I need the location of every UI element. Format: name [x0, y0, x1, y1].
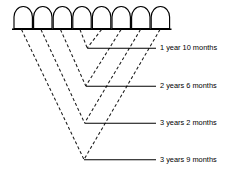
- arch-shape-tooth-5: [92, 6, 110, 28]
- eruption-ray-left-4: [22, 30, 85, 160]
- eruption-v-group-4: [22, 30, 161, 160]
- eruption-ray-right-2: [86, 30, 121, 86]
- arch-shape-tooth-1: [14, 6, 32, 28]
- arch-shape-tooth-7: [132, 7, 150, 29]
- arch-row: [14, 6, 170, 28]
- eruption-ray-left-1: [80, 30, 87, 48]
- eruption-ray-left-3: [41, 30, 85, 123]
- age-label-4: 3 years 9 months: [160, 155, 217, 164]
- tooth-eruption-diagram: 1 year 10 months 2 years 6 months 3 year…: [0, 0, 238, 172]
- eruption-ray-left-2: [61, 30, 86, 86]
- diagram-canvas: 1 year 10 months 2 years 6 months 3 year…: [0, 0, 238, 172]
- age-label-1: 1 year 10 months: [160, 43, 217, 52]
- arch-shape-tooth-6: [112, 7, 130, 29]
- arch-shape-tooth-2: [34, 6, 52, 28]
- arch-shape-tooth-3: [53, 7, 71, 29]
- arch-shape-tooth-4: [73, 7, 91, 29]
- eruption-v-group-1: [80, 30, 102, 48]
- arch-shape-tooth-8: [151, 6, 169, 28]
- eruption-ray-right-4: [84, 30, 160, 160]
- age-label-3: 3 years 2 months: [160, 118, 217, 127]
- age-label-2: 2 years 6 months: [160, 81, 217, 90]
- eruption-ray-right-1: [87, 30, 101, 48]
